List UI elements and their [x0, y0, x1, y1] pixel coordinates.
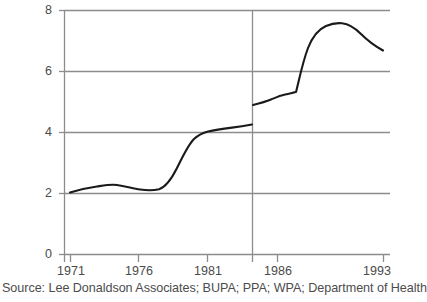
- x-tick-label-1971: 1971: [46, 264, 96, 278]
- x-tick-label-1981: 1981: [183, 264, 233, 278]
- x-tick-label-1986: 1986: [253, 264, 303, 278]
- y-tick-label-8: 8: [26, 3, 52, 17]
- data-line-segment-2: [253, 23, 383, 105]
- y-tick-label-4: 4: [26, 125, 52, 139]
- y-tick-label-0: 0: [26, 247, 52, 261]
- x-tick-label-1993: 1993: [352, 264, 402, 278]
- x-axis-ticks: [71, 254, 384, 262]
- gridlines: [64, 11, 390, 255]
- y-axis-ticks: [59, 11, 64, 255]
- data-line-segment-1: [70, 125, 252, 193]
- source-caption: Source: Lee Donaldson Associates; BUPA; …: [2, 281, 427, 295]
- y-tick-label-6: 6: [26, 64, 52, 78]
- y-tick-label-2: 2: [26, 186, 52, 200]
- x-tick-label-1976: 1976: [114, 264, 164, 278]
